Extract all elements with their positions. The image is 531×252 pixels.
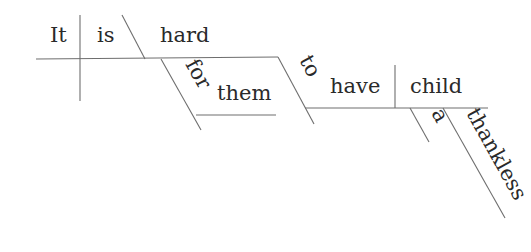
predicate-complement-slash xyxy=(122,15,145,59)
word-predicate-adjective: hard xyxy=(160,23,210,47)
word-infinitive-verb: have xyxy=(330,74,380,98)
sentence-diagram: It is hard for them to have child a than… xyxy=(0,0,531,252)
word-prepositional-object: them xyxy=(217,81,271,105)
word-article: a xyxy=(427,104,454,127)
main-baseline xyxy=(36,57,278,59)
article-slant-line xyxy=(410,108,429,142)
word-adjective: thankless xyxy=(462,104,531,204)
word-preposition: for xyxy=(181,55,217,94)
word-infinitive-marker: to xyxy=(295,51,326,81)
word-verb: is xyxy=(97,23,115,47)
word-direct-object: child xyxy=(410,74,462,98)
word-subject: It xyxy=(50,23,67,47)
